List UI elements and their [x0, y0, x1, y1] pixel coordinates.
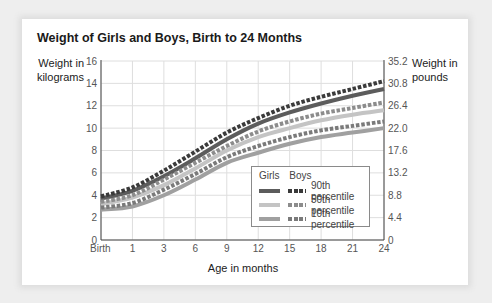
x-tick: 24 [378, 243, 390, 254]
x-tick: 1 [130, 243, 136, 254]
y-tick-left: 14 [86, 78, 98, 89]
y-tick-right: 17.6 [388, 145, 408, 156]
legend: Girls Boys 90th percentile 50th percenti… [251, 166, 370, 227]
y-tick-left: 16 [86, 56, 98, 67]
y-tick-right: 8.8 [388, 190, 402, 201]
legend-boys-header: Boys [289, 170, 311, 181]
y-tick-right: 13.2 [388, 167, 408, 178]
y-tick-right: 35.2 [388, 56, 408, 67]
legend-label-10th: 10th percentile [311, 208, 369, 230]
y-tick-right: 4.4 [388, 212, 402, 223]
y-tick-left: 8 [91, 145, 97, 156]
y-tick-left: 4 [91, 190, 97, 201]
legend-swatch-girls-50th [259, 203, 280, 207]
x-tick: 9 [224, 243, 230, 254]
y-tick-left: 6 [91, 167, 97, 178]
x-tick: 3 [161, 243, 167, 254]
y-tick-left: 12 [86, 100, 98, 111]
legend-girls-header: Girls [259, 170, 280, 181]
y-tick-right: 26.4 [388, 100, 408, 111]
legend-swatch-boys-10th [288, 217, 306, 221]
legend-swatch-girls-90th [259, 189, 280, 193]
legend-row-10th: 10th percentile [259, 212, 369, 225]
y-tick-right: 30.8 [388, 78, 408, 89]
legend-swatch-girls-10th [259, 217, 280, 221]
x-tick: 15 [284, 243, 296, 254]
legend-swatch-boys-50th [288, 203, 306, 207]
x-tick: Birth [90, 243, 111, 254]
y-tick-left: 10 [86, 123, 98, 134]
y-tick-right: 22.0 [388, 123, 408, 134]
line-chart: 024681012141604.48.813.217.622.026.430.8… [0, 0, 492, 303]
x-tick: 12 [253, 243, 265, 254]
legend-swatch-boys-90th [288, 189, 306, 193]
x-tick: 6 [193, 243, 199, 254]
y-tick-left: 2 [91, 212, 97, 223]
x-tick: 21 [347, 243, 359, 254]
legend-header: Girls Boys [259, 170, 319, 181]
x-tick: 18 [316, 243, 328, 254]
